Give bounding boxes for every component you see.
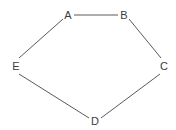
- node-b-label: B: [120, 9, 127, 21]
- edge-c-d: [101, 74, 160, 118]
- node-c-label: C: [160, 60, 168, 72]
- node-e-label: E: [12, 60, 19, 72]
- edge-b-c: [129, 19, 161, 58]
- pentagon-graph-diagram: A B C D E: [0, 0, 176, 130]
- node-d-label: D: [91, 115, 99, 127]
- edge-e-a: [19, 19, 63, 58]
- graph-svg: A B C D E: [0, 0, 176, 130]
- edge-d-e: [19, 74, 89, 118]
- node-a-label: A: [64, 9, 72, 21]
